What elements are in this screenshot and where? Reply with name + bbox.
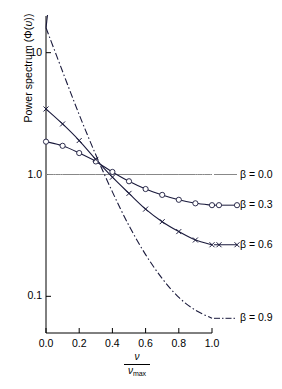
y-axis-title: Power spectrum (Φ(υ)) — [22, 0, 38, 168]
x-tick-label: 0.0 — [32, 337, 60, 349]
marker-cross — [160, 219, 165, 224]
marker-cross — [110, 175, 115, 180]
x-axis-title-denominator: νmax — [112, 366, 162, 377]
marker-circle — [43, 139, 48, 144]
marker-circle — [209, 203, 214, 208]
marker-cross — [77, 138, 82, 143]
legend-marker-circle — [234, 203, 239, 208]
marker-circle — [110, 169, 115, 174]
data-markers — [43, 106, 214, 247]
marker-circle — [60, 143, 65, 148]
x-tick-label: 0.6 — [132, 337, 160, 349]
figure-container: Power spectrum (Φ(υ)) ν νmax 101.00.1 0.… — [0, 0, 282, 389]
marker-circle — [143, 186, 148, 191]
curve-beta-0-3 — [46, 142, 212, 206]
x-tick-label: 0.8 — [165, 337, 193, 349]
curve-beta-0-6 — [46, 109, 212, 245]
x-tick-label: 0.2 — [65, 337, 93, 349]
data-curves — [46, 15, 212, 318]
curve-beta-0-9 — [46, 28, 212, 319]
marker-cross — [143, 207, 148, 212]
x-tick-label: 1.0 — [198, 337, 226, 349]
marker-circle — [193, 201, 198, 206]
marker-cross — [176, 229, 181, 234]
y-axis-title-text: Power spectrum (Φ(υ)) — [22, 13, 34, 122]
y-tick-label: 10 — [8, 46, 42, 58]
legend-label-beta-0-0: β = 0.0 — [240, 168, 273, 180]
marker-cross — [127, 191, 132, 196]
marker-circle — [77, 150, 82, 155]
y-tick-label: 0.1 — [8, 289, 42, 301]
power-spectrum-chart — [0, 0, 282, 389]
marker-cross — [60, 121, 65, 126]
x-axis-title: ν νmax — [112, 352, 162, 377]
x-axis-title-numerator: ν — [112, 352, 162, 363]
marker-circle — [176, 197, 181, 202]
legend-sample-lines — [214, 175, 240, 319]
marker-cross — [193, 237, 198, 242]
legend-marker-circle — [216, 203, 221, 208]
legend-label-beta-0-6: β = 0.6 — [240, 238, 273, 250]
x-axis-ticks — [46, 328, 212, 333]
legend-label-beta-0-9: β = 0.9 — [240, 311, 273, 323]
marker-circle — [160, 192, 165, 197]
y-tick-label: 1.0 — [8, 168, 42, 180]
legend-label-beta-0-3: β = 0.3 — [240, 198, 273, 210]
x-tick-label: 0.4 — [98, 337, 126, 349]
marker-circle — [126, 179, 131, 184]
